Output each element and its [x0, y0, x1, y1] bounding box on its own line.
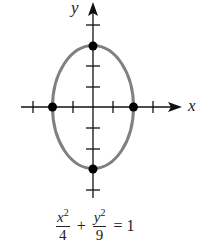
denominator-y: 9 — [96, 227, 104, 243]
equation: x2 4 + y2 9 = 1 — [56, 208, 134, 243]
plus-sign: + — [77, 217, 86, 235]
equals-one: = 1 — [113, 217, 134, 235]
exponent-x: 2 — [64, 207, 69, 218]
numerator-x: x — [57, 209, 64, 225]
denominator-x: 4 — [59, 227, 67, 243]
exponent-y: 2 — [100, 207, 105, 218]
point-top — [89, 42, 98, 51]
point-left — [48, 103, 57, 112]
fraction-x: x2 4 — [56, 208, 70, 243]
y-axis-label: y — [71, 0, 79, 18]
fraction-y: y2 9 — [93, 208, 107, 243]
point-right — [129, 103, 138, 112]
point-bottom — [89, 165, 98, 174]
x-axis-label: x — [188, 96, 196, 116]
